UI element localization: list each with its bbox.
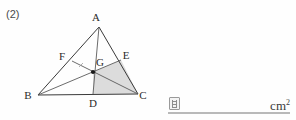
answer-box-icon-bar-2 bbox=[172, 104, 177, 105]
vertex-label-b: B bbox=[24, 89, 31, 101]
vertex-label-d: D bbox=[89, 97, 97, 109]
vertex-label-g: G bbox=[96, 56, 104, 68]
vertex-label-c: C bbox=[139, 89, 146, 101]
vertex-label-a: A bbox=[92, 11, 100, 23]
answer-box-icon-bar-3 bbox=[172, 107, 177, 108]
side-bc-line bbox=[38, 94, 138, 95]
answer-unit-text: cm bbox=[270, 98, 286, 113]
answer-unit-label: cm2 bbox=[270, 99, 290, 112]
vertex-label-f: F bbox=[59, 50, 65, 62]
answer-box-icon-bar-1 bbox=[172, 101, 177, 102]
answer-unit-exponent: 2 bbox=[286, 98, 290, 107]
side-ab-line bbox=[38, 27, 99, 95]
vertex-label-e: E bbox=[123, 49, 130, 61]
answer-box-icon[interactable] bbox=[169, 97, 180, 110]
point-g-dot-icon bbox=[91, 70, 95, 74]
triangle-figure: A B C D E F G bbox=[0, 0, 296, 120]
problem-figure-page: (2) A B C D E F G cm2 bbox=[0, 0, 296, 120]
